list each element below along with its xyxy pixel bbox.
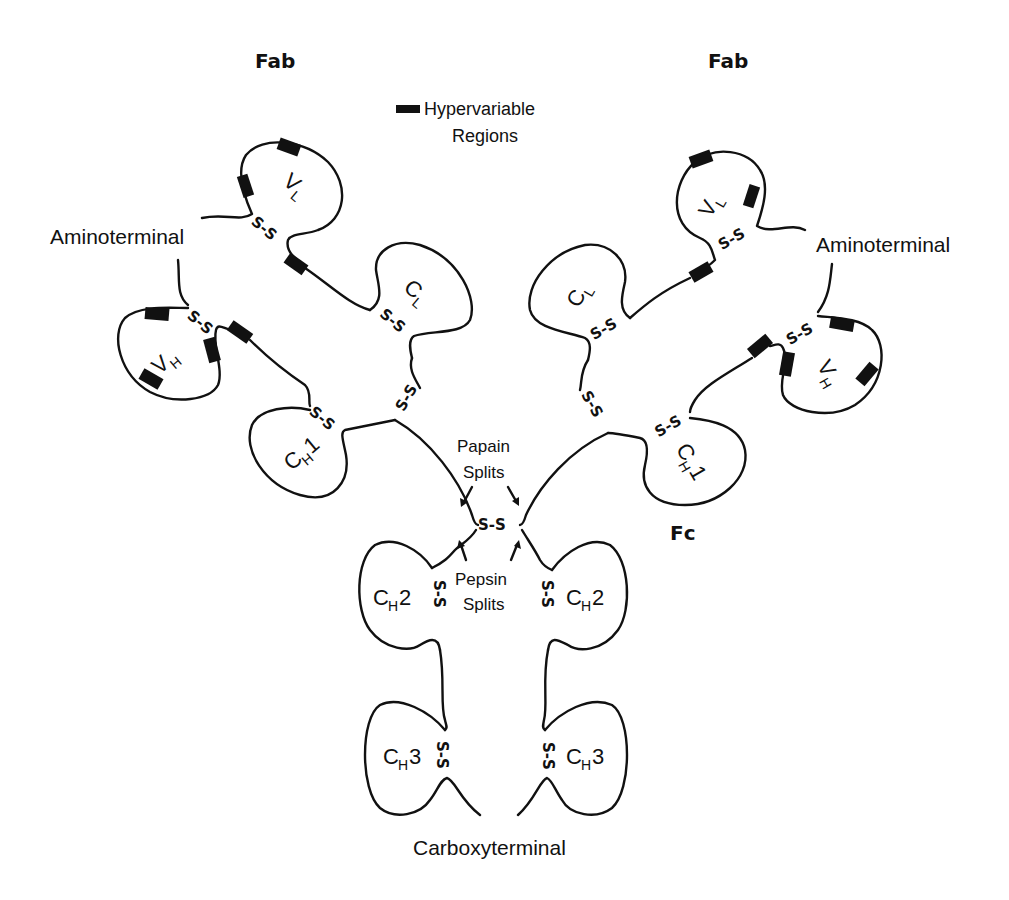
heavy-chain-linker (690, 358, 752, 412)
ch3-right-label: C H 3 (566, 744, 604, 773)
disulfide-bond: S-S (539, 742, 557, 770)
legend-line-2: Regions (452, 126, 518, 146)
disulfide-bond: S-S (577, 388, 607, 421)
disulfide-bond: S-S (538, 580, 556, 608)
svg-text:H: H (581, 757, 591, 773)
hypervariable-region (743, 184, 760, 208)
pepsin-label-1: Pepsin (455, 570, 507, 589)
right-fab: S-S V L S-S C L S-S S-S V H S-S (520, 150, 882, 525)
antibody-diagram: Fab Fab Fc Hypervariable Regions Aminote… (0, 0, 1009, 900)
hypervariable-region (747, 334, 773, 359)
light-heavy-linker (580, 360, 588, 390)
fc-label: Fc (670, 521, 696, 545)
ch2-left-label: C H 2 (373, 585, 411, 614)
disulfide-bond: S-S (715, 224, 748, 254)
right-fc: S-S C H 2 S-S C H 3 (518, 542, 627, 815)
vl-right-label: V L (693, 189, 730, 223)
svg-text:3: 3 (409, 744, 421, 769)
hypervariable-region (779, 351, 795, 377)
svg-text:C: C (566, 744, 582, 769)
disulfide-bond: S-S (652, 411, 685, 441)
left-fab: S-S V L S-S C L S-S S-S V H S-S (118, 138, 478, 525)
hypervariable-swatch (396, 105, 420, 113)
hinge-region: S-S Papain Splits Pepsin Splits (432, 437, 552, 614)
light-chain-linker (630, 278, 690, 318)
svg-text:3: 3 (592, 744, 604, 769)
svg-text:C: C (383, 744, 399, 769)
svg-text:2: 2 (399, 585, 411, 610)
pepsin-label-2: Splits (463, 595, 505, 614)
papain-arrow-left-icon (464, 487, 472, 502)
disulfide-bond: S-S (587, 314, 620, 344)
disulfide-bond: S-S (376, 305, 409, 337)
disulfide-bond: S-S (433, 741, 451, 769)
svg-text:C: C (373, 585, 389, 610)
svg-text:C: C (566, 585, 582, 610)
cl-right-label: C L (561, 278, 598, 313)
ch1-left-label: C H 1 (279, 431, 327, 478)
hypervariable-region (277, 138, 302, 157)
heavy-chain-n-terminus (818, 264, 832, 312)
hypervariable-region (829, 316, 855, 332)
svg-text:H: H (581, 598, 591, 614)
disulfide-bond: S-S (392, 381, 422, 414)
svg-text:2: 2 (592, 585, 604, 610)
hypervariable-region (237, 174, 254, 198)
ch2-ch3-linker (440, 650, 447, 730)
ch2-right-domain (548, 542, 627, 650)
hypervariable-region (689, 150, 714, 169)
legend-line-1: Hypervariable (424, 99, 535, 119)
disulfide-bond: S-S (184, 307, 217, 339)
ch1-right-label: C H 1 (668, 439, 712, 487)
vl-left-label: V L (276, 168, 312, 205)
right-hinge (520, 433, 608, 525)
hypervariable-region (145, 307, 170, 321)
pepsin-arrow-right-icon (511, 545, 517, 560)
ch3-left-label: C H 3 (383, 744, 421, 773)
ch2-ch3-linker (543, 650, 548, 730)
papain-label-2: Splits (463, 463, 505, 482)
ch2-right-label: C H 2 (566, 585, 604, 614)
hypervariable-region (203, 337, 221, 363)
cl-left-label: C L (397, 274, 434, 312)
right-lower-hinge (522, 530, 552, 570)
papain-arrow-right-icon (508, 487, 516, 501)
light-heavy-linker (411, 358, 420, 388)
aminoterminal-left-label: Aminoterminal (50, 225, 184, 248)
svg-text:H: H (388, 598, 398, 614)
heavy-chain-linker (250, 340, 310, 406)
fab-right-label: Fab (708, 49, 748, 73)
left-lower-hinge (432, 530, 476, 568)
vh-right-label: V H (809, 356, 847, 392)
hypervariable-region (284, 253, 309, 275)
aminoterminal-right-label: Aminoterminal (816, 233, 950, 256)
carboxyterminal-label: Carboxyterminal (413, 836, 566, 859)
heavy-chain-n-terminus (178, 260, 188, 305)
disulfide-bond: S-S (430, 580, 448, 608)
pepsin-arrow-left-icon (461, 545, 466, 560)
disulfide-bond: S-S (306, 403, 339, 435)
light-chain-linker (305, 268, 370, 310)
vl-left-domain (202, 142, 342, 262)
disulfide-bond: S-S (783, 319, 816, 349)
legend: Hypervariable Regions (396, 99, 535, 146)
papain-label-1: Papain (457, 437, 510, 456)
fab-left-label: Fab (255, 49, 295, 73)
disulfide-bond: S-S (248, 213, 281, 245)
svg-text:H: H (398, 757, 408, 773)
hinge-disulfide-bond: S-S (478, 516, 506, 534)
